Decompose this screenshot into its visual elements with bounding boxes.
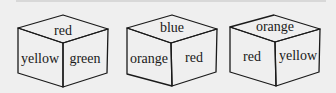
cube-3-left-label: red <box>243 49 261 64</box>
cube-diagram: red yellow green blue orange red orange … <box>0 0 336 93</box>
cube-2-top-label: blue <box>160 20 184 35</box>
cube-3-right-label: yellow <box>279 48 318 63</box>
cube-2-right-label: red <box>185 50 203 65</box>
cube-1: red yellow green <box>18 15 108 87</box>
cube-3-top-label: orange <box>256 19 294 34</box>
cube-2-left-label: orange <box>130 51 168 66</box>
cube-1-right-label: green <box>69 51 100 66</box>
cubes-canvas: red yellow green blue orange red orange … <box>0 0 336 93</box>
cube-2: blue orange red <box>127 15 217 86</box>
cube-3: orange red yellow <box>230 15 320 86</box>
cube-1-left-label: yellow <box>21 51 60 66</box>
cube-1-top-label: red <box>54 23 72 38</box>
